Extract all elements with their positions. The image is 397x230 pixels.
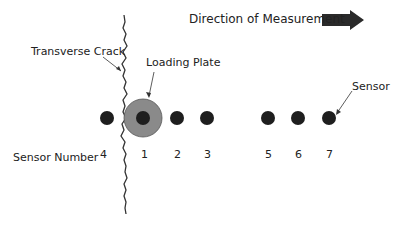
sensor-3 — [200, 111, 214, 125]
sensor-number-5: 5 — [265, 148, 272, 161]
sensor-number-4: 4 — [100, 148, 107, 161]
sensor-number-6: 6 — [295, 148, 302, 161]
pavement-diagram — [0, 0, 397, 230]
sensor-leader-arrowhead-icon — [336, 109, 341, 115]
sensor-label: Sensor — [352, 80, 390, 93]
sensor-number-3: 3 — [204, 148, 211, 161]
sensor-number-7: 7 — [326, 148, 333, 161]
sensor-2 — [170, 111, 184, 125]
plate-leader-line — [149, 72, 154, 96]
sensor-leader-line — [337, 91, 352, 113]
sensor-6 — [291, 111, 305, 125]
plate-leader-arrowhead-icon — [146, 92, 151, 98]
sensor-1 — [136, 111, 150, 125]
sensor-number-2: 2 — [174, 148, 181, 161]
sensor-4 — [100, 111, 114, 125]
crack-leader-arrowhead-icon — [116, 66, 121, 71]
plate-label: Loading Plate — [146, 56, 220, 69]
crack-label: Transverse Crack — [31, 45, 125, 58]
sensor-number-1: 1 — [141, 148, 148, 161]
sensor-number-label: Sensor Number — [13, 151, 98, 164]
sensor-5 — [261, 111, 275, 125]
direction-label: Direction of Measurement — [189, 12, 345, 26]
sensor-7 — [322, 111, 336, 125]
